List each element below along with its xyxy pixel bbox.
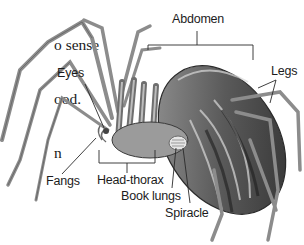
label-eyes: Eyes <box>57 66 84 80</box>
label-fangs: Fangs <box>46 174 80 188</box>
label-book-lungs: Book lungs <box>121 189 181 203</box>
label-head-thorax: Head-thorax <box>97 173 164 187</box>
label-spiracle: Spiracle <box>165 206 209 220</box>
eyes-shape <box>103 128 109 134</box>
spider-illustration <box>0 0 304 245</box>
label-legs: Legs <box>271 64 297 78</box>
label-abdomen: Abdomen <box>172 12 224 26</box>
